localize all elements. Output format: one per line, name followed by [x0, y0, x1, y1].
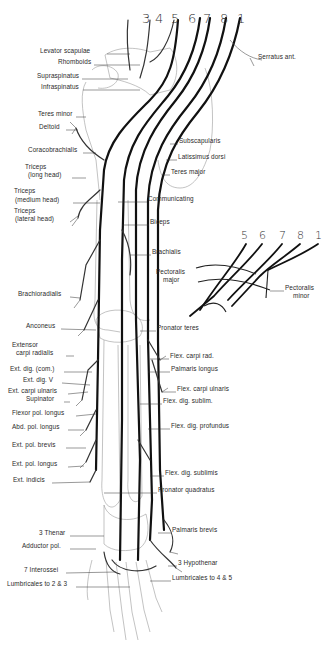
nerve-diagram: 3 4 5 6 7 8 1 5 6 7 8 1 Levator scapulae…	[0, 0, 332, 652]
label-flex-dig-prof: Flex. dig. profundus	[171, 422, 229, 429]
label-flex-carpi-rad: Flex. carpi rad.	[170, 352, 214, 359]
inset-segment-number: 6	[259, 230, 266, 241]
label-coracobrachialis: Coracobrachialis	[28, 146, 77, 153]
segment-number: 7	[203, 12, 211, 25]
label-anconeus: Anconeus	[26, 322, 55, 329]
label-supraspinatus: Supraspinatus	[37, 72, 79, 79]
segment-number: 8	[220, 12, 228, 25]
label-ext-carpi-rad-2: carpi radialis	[16, 349, 53, 356]
segment-number: 1	[237, 12, 245, 25]
inset-segment-number: 7	[279, 230, 286, 241]
label-ext-pol-brevis: Ext. pol. brevis	[12, 441, 56, 448]
label-subscapularis: Subscapularis	[179, 137, 220, 144]
label-abd-pol-longus: Abd. pol. longus	[12, 423, 59, 430]
label-ext-carpi-uln: Ext. carpi ulnaris	[8, 387, 57, 394]
label-rhomboids: Rhomboids	[58, 58, 91, 65]
label-levator: Levator scapulae	[40, 47, 90, 54]
label-serratus: Serratus ant.	[258, 53, 296, 60]
label-adductor-pol: Adductor pol.	[22, 542, 61, 549]
segment-number: 5	[171, 12, 179, 25]
label-pectoralis-major: Pectoralis	[156, 268, 185, 275]
label-ext-indicis: Ext. indicis	[13, 476, 45, 483]
label-palmaris-brevis: Palmaris brevis	[172, 526, 217, 533]
label-thenar: 3 Thenar	[39, 529, 65, 536]
label-ext-dig-com: Ext. dig. (com.)	[10, 365, 55, 372]
label-pronator-teres: Pronator teres	[157, 324, 199, 331]
label-lumbricales-23: Lumbricales to 2 & 3	[7, 580, 67, 587]
label-infraspinatus: Infraspinatus	[41, 83, 79, 90]
label-triceps-lateral-2: (lateral head)	[15, 215, 54, 222]
label-biceps: Biceps	[150, 218, 170, 225]
label-triceps-medium: Triceps	[14, 187, 35, 194]
label-pronator-quad: Pronator quadratus	[158, 486, 215, 493]
segment-number: 4	[155, 12, 163, 25]
label-teres-major: Teres major	[171, 168, 205, 175]
label-communicating: Communicating	[148, 195, 194, 202]
label-triceps-long: Triceps	[25, 163, 46, 170]
label-supinator: Supinator	[26, 395, 54, 402]
label-pectoralis-minor: Pectoralis	[285, 284, 314, 291]
label-ext-carpi-rad: Extensor	[12, 341, 38, 348]
label-pectoralis-minor-2: minor	[293, 292, 309, 299]
label-latissimus: Latissimus dorsi	[178, 153, 225, 160]
segment-number: 3	[142, 12, 150, 25]
inset-segment-number: 1	[315, 230, 322, 241]
label-triceps-long-2: (long head)	[28, 171, 61, 178]
label-ext-pol-longus: Ext. pol. longus	[12, 460, 57, 467]
label-hypothenar: 3 Hypothenar	[178, 559, 218, 566]
label-brachialis: Brachialis	[152, 248, 181, 255]
label-triceps-medium-2: (medium head)	[15, 196, 59, 203]
label-brachioradialis: Brachioradialis	[18, 290, 61, 297]
label-flex-carpi-uln: Flex. carpi ulnaris	[177, 385, 229, 392]
label-flex-dig-sublim: Flex. dig. sublim.	[163, 397, 213, 404]
inset-segment-number: 8	[297, 230, 304, 241]
label-flexor-pol-longus: Flexor pol. longus	[12, 409, 64, 416]
label-pectoralis-major-2: major	[163, 276, 179, 283]
segment-number: 6	[188, 12, 196, 25]
label-teres-minor: Teres minor	[38, 110, 72, 117]
label-interossei: 7 Interossei	[24, 566, 58, 573]
label-triceps-lateral: Triceps	[14, 207, 35, 214]
label-deltoid: Deltoid	[39, 123, 60, 130]
label-palmaris-longus: Palmaris longus	[171, 365, 218, 372]
inset-segment-number: 5	[241, 230, 248, 241]
label-flex-dig-sublimis: Flex. dig. sublimis	[165, 469, 218, 476]
label-ext-dig-v: Ext. dig. V	[23, 376, 53, 383]
label-lumbricales-45: Lumbricales to 4 & 5	[172, 574, 232, 581]
